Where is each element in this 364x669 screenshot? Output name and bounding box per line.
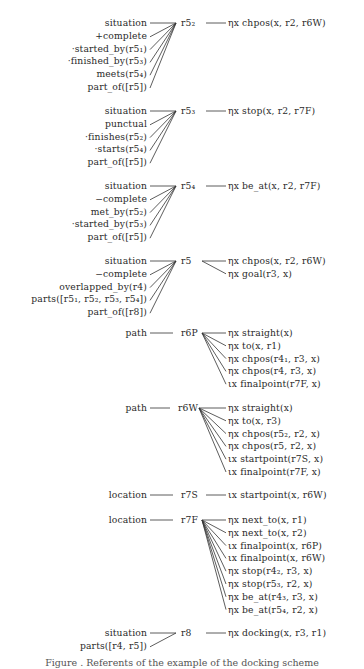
attribute-r6_P: path	[125, 327, 147, 339]
node-label-r5_2: r5₂	[181, 17, 195, 29]
predicate-r7_S: ιx startpoint(x, r6W)	[228, 489, 327, 501]
attribute-r5_3: situation	[105, 105, 147, 117]
attribute-r5_4: ·started_by(r5₃)	[72, 218, 147, 230]
attribute-r5_4: −complete	[95, 193, 147, 205]
attribute-r5: −complete	[95, 268, 147, 280]
attribute-r5_2: ·finished_by(r5₃)	[68, 55, 147, 67]
attribute-r5_4: situation	[105, 180, 147, 192]
attribute-r5_2: +complete	[95, 30, 147, 42]
predicate-r7_F: ηx be_at(r5₄, r2, x)	[228, 604, 318, 616]
attribute-r5: parts([r5₁, r5₂, r5₃, r5₄])	[31, 293, 147, 305]
attribute-r5_2: ·started_by(r5₁)	[72, 43, 147, 55]
attribute-r5_3: ·starts(r5₄)	[95, 143, 148, 155]
predicate-r6_P: ηx chpos(r4₁, r3, x)	[228, 353, 320, 365]
predicate-r6_W: ιx startpoint(r7S, x)	[228, 453, 323, 465]
attribute-r7_S: location	[109, 489, 147, 501]
attribute-r5_2: meets(r5₄)	[96, 68, 147, 80]
attribute-r6_W: path	[125, 402, 147, 414]
attribute-r5_2: situation	[105, 17, 147, 29]
predicate-r6_P: ηx straight(x)	[228, 327, 293, 339]
attribute-r5_3: part_of([r5])	[88, 156, 148, 168]
attribute-r5: overlapped_by(r4)	[59, 281, 147, 293]
predicate-r7_F: ιx finalpoint(x, r6W)	[228, 552, 325, 564]
attribute-r5: part_of([r8])	[88, 306, 148, 318]
node-label-r7_F: r7F	[181, 514, 198, 526]
attribute-r7_F: location	[109, 514, 147, 526]
node-label-r5: r5	[181, 255, 192, 267]
predicate-r6_W: ιx finalpoint(r7F, x)	[228, 466, 321, 478]
predicate-r6_W: ηx straight(x)	[228, 402, 293, 414]
predicate-r5_4: ηx be_at(x, r2, r7F)	[228, 180, 321, 192]
attribute-r8: parts([r4, r5])	[80, 640, 147, 652]
figure-caption: Figure . Referents of the example of the…	[0, 657, 364, 669]
predicate-r6_W: ηx chpos(r5₂, r2, x)	[228, 428, 320, 440]
node-label-r7_S: r7S	[181, 489, 198, 501]
node-label-r5_3: r5₃	[181, 105, 195, 117]
predicate-r5_2: ηx chpos(x, r2, r6W)	[228, 17, 326, 29]
attribute-r5_3: punctual	[105, 118, 147, 130]
attribute-r8: situation	[105, 627, 147, 639]
attribute-r5_4: part_of([r5])	[88, 231, 148, 243]
predicate-r7_F: ηx stop(r4₂, r3, x)	[228, 565, 312, 577]
attribute-r5_3: ·finishes(r5₂)	[85, 131, 147, 143]
predicate-r6_P: ηx to(x, r1)	[228, 340, 281, 352]
predicate-r5_3: ηx stop(x, r2, r7F)	[228, 105, 315, 117]
attribute-r5_2: part_of([r5])	[88, 81, 148, 93]
node-label-r6_P: r6P	[181, 327, 198, 339]
predicate-r6_P: ιx finalpoint(r7F, x)	[228, 378, 321, 390]
predicate-r7_F: ηx next_to(x, r1)	[228, 514, 307, 526]
predicate-r6_W: ηx chpos(r5, r2, x)	[228, 440, 316, 452]
predicate-r6_W: ηx to(x, r3)	[228, 415, 281, 427]
predicate-r6_P: ηx chpos(r4, r3, x)	[228, 365, 316, 377]
predicate-r5: ηx goal(r3, x)	[228, 268, 292, 280]
predicate-r8: ηx docking(x, r3, r1)	[228, 627, 326, 639]
predicate-r7_F: ιx finalpoint(x, r6P)	[228, 540, 322, 552]
attribute-r5: situation	[105, 255, 147, 267]
predicate-r5: ηx chpos(x, r2, r6W)	[228, 255, 326, 267]
node-label-r5_4: r5₄	[181, 180, 195, 192]
node-label-r8: r8	[181, 627, 192, 639]
predicate-r7_F: ηx next_to(x, r2)	[228, 527, 307, 539]
predicate-r7_F: ηx be_at(r4₃, r3, x)	[228, 591, 318, 603]
predicate-r7_F: ηx stop(r5₃, r2, x)	[228, 578, 312, 590]
attribute-r5_4: met_by(r5₂)	[91, 206, 147, 218]
node-label-r6_W: r6W	[178, 402, 198, 414]
